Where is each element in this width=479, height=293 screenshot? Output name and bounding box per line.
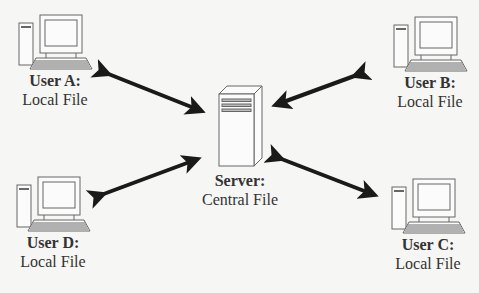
- node-user-d: User D: Local File: [0, 174, 108, 271]
- user-c-title: User C:: [373, 236, 479, 254]
- server-subtitle: Central File: [185, 190, 295, 209]
- server-tower-icon: [215, 84, 265, 168]
- node-user-c: User C: Local File: [373, 176, 479, 273]
- user-c-subtitle: Local File: [373, 254, 479, 273]
- node-user-b: User B: Local File: [375, 14, 479, 111]
- desktop-computer-icon: [14, 174, 92, 234]
- user-b-title: User B:: [375, 74, 479, 92]
- user-b-subtitle: Local File: [375, 92, 479, 111]
- node-server: Server: Central File: [185, 84, 295, 209]
- desktop-computer-icon: [16, 12, 94, 72]
- user-a-title: User A:: [0, 72, 110, 90]
- desktop-computer-icon: [391, 14, 469, 74]
- arrow-user-d-server: [101, 160, 195, 195]
- server-title: Server:: [185, 172, 295, 190]
- user-d-subtitle: Local File: [0, 252, 108, 271]
- diagram-canvas: User A: Local File User B: Local File: [0, 0, 479, 293]
- user-a-subtitle: Local File: [0, 90, 110, 109]
- node-user-a: User A: Local File: [0, 12, 110, 109]
- user-d-title: User D:: [0, 234, 108, 252]
- desktop-computer-icon: [389, 176, 467, 236]
